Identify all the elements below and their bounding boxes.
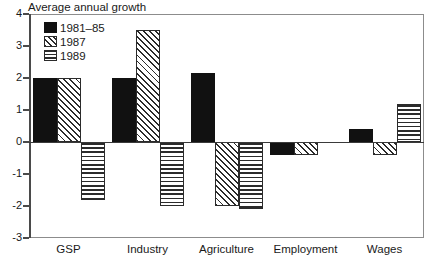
y-tick-label: -1 bbox=[12, 168, 22, 179]
x-tick-label-gsp: GSP bbox=[29, 243, 108, 256]
x-tick-label-wages: Wages bbox=[345, 243, 424, 256]
x-tick-label-industry: Industry bbox=[108, 243, 187, 256]
y-tick-mark bbox=[23, 45, 29, 46]
zero-baseline bbox=[29, 142, 424, 143]
bar-employment-1987 bbox=[294, 142, 318, 155]
bar-gsp-1981-85 bbox=[33, 78, 57, 142]
legend-swatch-icon bbox=[44, 22, 57, 33]
x-tick-label-employment: Employment bbox=[266, 243, 345, 256]
chart-title: Average annual growth bbox=[28, 1, 146, 14]
legend-entry-1989: 1989 bbox=[44, 49, 105, 62]
y-tick-mark bbox=[23, 173, 29, 174]
bar-wages-1981-85 bbox=[349, 129, 373, 142]
y-tick-mark bbox=[23, 205, 29, 206]
y-tick-label: -3 bbox=[12, 232, 22, 243]
bar-industry-1987 bbox=[136, 30, 160, 142]
bar-agriculture-1981-85 bbox=[191, 73, 215, 142]
legend-swatch-icon bbox=[44, 36, 57, 47]
y-axis-line bbox=[29, 14, 31, 238]
bar-employment-1981-85 bbox=[270, 142, 294, 155]
y-tick-label: 1 bbox=[16, 104, 22, 115]
bar-industry-1989 bbox=[160, 142, 184, 206]
chart-legend: 1981–8519871989 bbox=[44, 21, 105, 62]
y-tick-label: 2 bbox=[16, 72, 22, 83]
y-tick-mark bbox=[23, 109, 29, 110]
y-tick-label: 3 bbox=[16, 40, 22, 51]
y-tick-mark bbox=[23, 13, 29, 14]
y-tick-label: -2 bbox=[12, 200, 22, 211]
legend-entry-1981-85: 1981–85 bbox=[44, 21, 105, 34]
bar-wages-1987 bbox=[373, 142, 397, 155]
bar-gsp-1987 bbox=[57, 78, 81, 142]
legend-label: 1989 bbox=[60, 50, 86, 62]
bar-gsp-1989 bbox=[81, 142, 105, 200]
x-tick-label-agriculture: Agriculture bbox=[187, 243, 266, 256]
bar-agriculture-1987 bbox=[215, 142, 239, 206]
legend-swatch-icon bbox=[44, 50, 57, 61]
legend-entry-1987: 1987 bbox=[44, 35, 105, 48]
y-tick-label: 0 bbox=[16, 136, 22, 147]
legend-label: 1987 bbox=[60, 36, 86, 48]
y-tick-mark bbox=[23, 77, 29, 78]
bar-wages-1989 bbox=[397, 104, 421, 142]
y-tick-mark bbox=[23, 237, 29, 238]
legend-label: 1981–85 bbox=[60, 22, 105, 34]
bar-industry-1981-85 bbox=[112, 78, 136, 142]
y-tick-label: 4 bbox=[16, 8, 22, 19]
chart-figure: Average annual growth 43210-1-2-3 GSPInd… bbox=[0, 0, 439, 267]
bar-agriculture-1989 bbox=[239, 142, 263, 209]
